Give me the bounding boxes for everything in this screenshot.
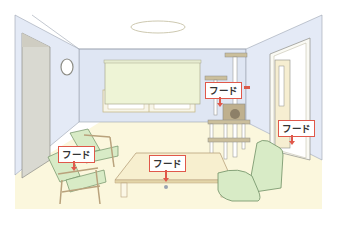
arrowhead-right-door xyxy=(289,141,295,145)
arrowhead-armchair xyxy=(71,167,77,171)
arrowhead-table xyxy=(163,178,169,182)
roller-blind xyxy=(105,61,200,104)
arrowhead-cat-tower xyxy=(217,103,223,107)
label-armchair: フード xyxy=(58,146,95,163)
label-table: フード xyxy=(149,155,186,172)
label-cat-tower: フード xyxy=(205,82,242,99)
wall-clock xyxy=(61,59,73,75)
ceiling-light xyxy=(131,21,185,33)
label-right-door: フード xyxy=(278,120,315,137)
room-illustration xyxy=(0,0,337,229)
arrow-table xyxy=(165,170,167,178)
left-doorway xyxy=(22,33,50,178)
